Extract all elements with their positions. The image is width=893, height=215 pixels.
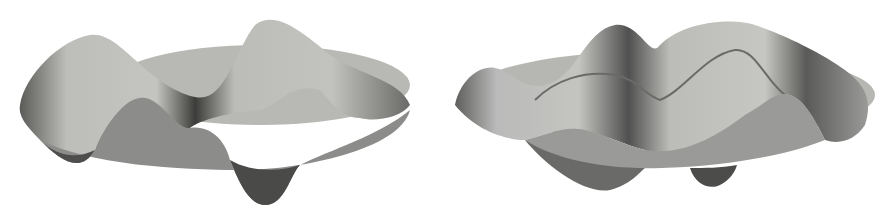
- surface-plot-right: [445, 0, 893, 215]
- surface-plot-left: [0, 0, 445, 215]
